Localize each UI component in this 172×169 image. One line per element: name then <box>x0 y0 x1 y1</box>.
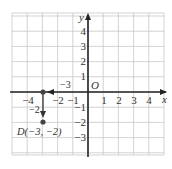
point-d-label: D(−3, −2) <box>16 126 62 138</box>
move-label-vertical: −2 <box>29 104 40 115</box>
x-axis-label: x <box>161 93 167 105</box>
origin-label: O <box>91 79 99 91</box>
y-axis-arrow-icon <box>85 13 91 20</box>
point-d <box>40 119 45 124</box>
coordinate-plane-figure: x y O −4 −2 −1 1 2 3 4 4 3 2 1 −1 −2 −3 … <box>0 0 172 169</box>
x-tick-label: 3 <box>131 94 137 106</box>
x-tick-labels: −4 −2 −1 1 2 3 4 <box>22 94 152 106</box>
y-tick-label: 3 <box>81 40 87 52</box>
y-axis-label: y <box>78 11 84 23</box>
x-tick-label: 1 <box>101 94 107 106</box>
x-tick-label: 2 <box>116 94 122 106</box>
y-tick-labels: 4 3 2 1 −1 −2 −3 <box>74 25 86 143</box>
y-tick-label: −3 <box>74 131 86 143</box>
x-tick-label: 4 <box>146 94 152 106</box>
y-tick-label: 2 <box>81 55 87 67</box>
y-tick-label: 4 <box>81 25 87 37</box>
y-tick-label: −2 <box>74 116 86 128</box>
y-tick-label: −1 <box>74 101 86 113</box>
x-tick-label: −2 <box>52 94 64 106</box>
start-point <box>40 89 45 94</box>
y-tick-label: 1 <box>81 70 87 82</box>
move-label-horizontal: −3 <box>60 79 71 90</box>
coordinate-plane-svg: x y O −4 −2 −1 1 2 3 4 4 3 2 1 −1 −2 −3 … <box>0 0 172 169</box>
down-arrow-icon <box>40 111 46 118</box>
left-arrow-icon <box>47 89 54 95</box>
translation-moves: −3 −2 <box>29 79 71 118</box>
